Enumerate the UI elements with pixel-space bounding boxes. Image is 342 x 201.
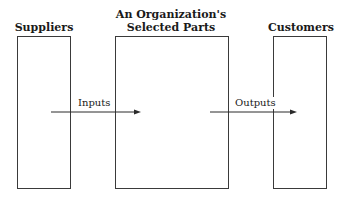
outputs-arrow-icon <box>210 110 297 115</box>
flow-arrows <box>0 0 342 201</box>
outputs-label: Outputs <box>233 97 278 109</box>
inputs-label: Inputs <box>76 97 112 109</box>
inputs-arrow-icon <box>51 110 141 115</box>
